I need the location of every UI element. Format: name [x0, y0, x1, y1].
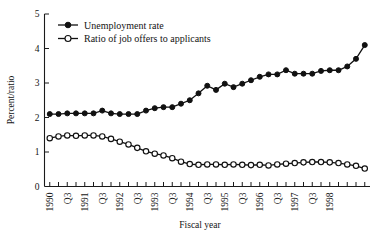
legend-swatch-marker — [65, 22, 71, 28]
data-point-marker — [336, 68, 341, 73]
y-tick-label: 4 — [35, 44, 40, 54]
data-point-marker — [100, 108, 105, 113]
data-point-marker — [170, 156, 175, 161]
data-point-marker — [73, 133, 78, 138]
data-point-marker — [266, 72, 271, 77]
y-tick-label: 2 — [35, 113, 40, 123]
data-point-marker — [56, 112, 61, 117]
x-tick-label: Q3 — [98, 192, 108, 204]
data-point-marker — [143, 149, 148, 154]
data-point-marker — [135, 112, 140, 117]
x-tick-labels: 1990Q31991Q31992Q31993Q31994Q31995Q31996… — [45, 192, 335, 211]
x-tick-label: 1998 — [325, 192, 335, 211]
data-point-marker — [222, 81, 227, 86]
data-point-marker — [240, 81, 245, 86]
data-point-marker — [275, 162, 280, 167]
data-point-marker — [100, 134, 105, 139]
data-point-marker — [179, 101, 184, 106]
data-point-marker — [117, 112, 122, 117]
data-point-marker — [65, 133, 70, 138]
line-chart: 012345 Percent/ratio 1990Q31991Q31992Q31… — [0, 0, 384, 239]
legend-label: Unemployment rate — [84, 20, 164, 31]
x-tick-label: 1990 — [45, 192, 55, 211]
data-point-marker — [283, 161, 288, 166]
legend-label: Ratio of job offers to applicants — [84, 33, 211, 44]
data-point-marker — [327, 68, 332, 73]
x-tick-label: 1995 — [220, 192, 230, 211]
x-tick-label: Q3 — [203, 192, 213, 204]
y-tick-label: 5 — [35, 9, 40, 19]
x-tick-label: 1996 — [255, 192, 265, 211]
data-point-marker — [249, 78, 254, 83]
data-point-marker — [74, 111, 79, 116]
data-point-marker — [310, 159, 315, 164]
data-point-marker — [196, 162, 201, 167]
data-point-marker — [257, 162, 262, 167]
data-point-marker — [135, 145, 140, 150]
data-point-marker — [91, 133, 96, 138]
data-point-marker — [187, 161, 192, 166]
chart-figure: 012345 Percent/ratio 1990Q31991Q31992Q31… — [0, 0, 384, 239]
x-tick-label: Q3 — [308, 192, 318, 204]
data-point-marker — [275, 72, 280, 77]
data-point-marker — [108, 136, 113, 141]
data-point-marker — [178, 159, 183, 164]
data-point-marker — [170, 105, 175, 110]
data-point-marker — [327, 160, 332, 165]
data-point-marker — [292, 160, 297, 165]
data-point-marker — [109, 111, 114, 116]
data-point-marker — [161, 153, 166, 158]
data-point-marker — [362, 166, 367, 171]
data-point-marker — [152, 151, 157, 156]
data-point-marker — [318, 159, 323, 164]
y-tick-label: 3 — [35, 78, 40, 88]
data-point-marker — [82, 111, 87, 116]
data-point-marker — [266, 163, 271, 168]
data-point-marker — [362, 43, 367, 48]
data-point-marker — [319, 68, 324, 73]
data-point-marker — [301, 71, 306, 76]
data-point-marker — [47, 136, 52, 141]
data-point-marker — [257, 74, 262, 79]
y-axis-title: Percent/ratio — [6, 75, 16, 124]
x-tick-label: 1991 — [80, 192, 90, 211]
x-tick-label: Q3 — [238, 192, 248, 204]
y-tick-label: 0 — [35, 182, 40, 192]
data-point-marker — [161, 105, 166, 110]
x-tick-label: Q3 — [273, 192, 283, 204]
data-point-marker — [205, 162, 210, 167]
data-point-marker — [196, 91, 201, 96]
data-point-marker — [345, 64, 350, 69]
data-point-marker — [240, 162, 245, 167]
data-point-marker — [214, 87, 219, 92]
data-point-marker — [231, 162, 236, 167]
x-tick-label: 1993 — [150, 192, 160, 211]
data-point-marker — [354, 56, 359, 61]
data-point-marker — [310, 71, 315, 76]
x-tick-label: 1994 — [185, 192, 195, 211]
y-tick-label: 1 — [35, 147, 40, 157]
data-point-marker — [144, 108, 149, 113]
data-point-marker — [353, 163, 358, 168]
data-point-marker — [284, 68, 289, 73]
data-point-marker — [292, 71, 297, 76]
data-point-marker — [152, 106, 157, 111]
x-tick-label: 1997 — [290, 192, 300, 211]
data-point-marker — [47, 112, 52, 117]
data-point-marker — [213, 162, 218, 167]
data-point-marker — [126, 112, 131, 117]
data-point-marker — [248, 162, 253, 167]
data-point-marker — [65, 111, 70, 116]
x-tick-label: Q3 — [63, 192, 73, 204]
data-point-marker — [205, 83, 210, 88]
legend-swatch-marker — [65, 36, 71, 42]
x-tick-label: Q3 — [133, 192, 143, 204]
data-point-marker — [336, 160, 341, 165]
x-tick-label: 1992 — [115, 192, 125, 211]
data-point-marker — [117, 139, 122, 144]
data-point-marker — [91, 111, 96, 116]
x-axis-title: Fiscal year — [179, 220, 221, 230]
data-point-marker — [126, 142, 131, 147]
data-point-marker — [82, 133, 87, 138]
data-point-marker — [345, 162, 350, 167]
